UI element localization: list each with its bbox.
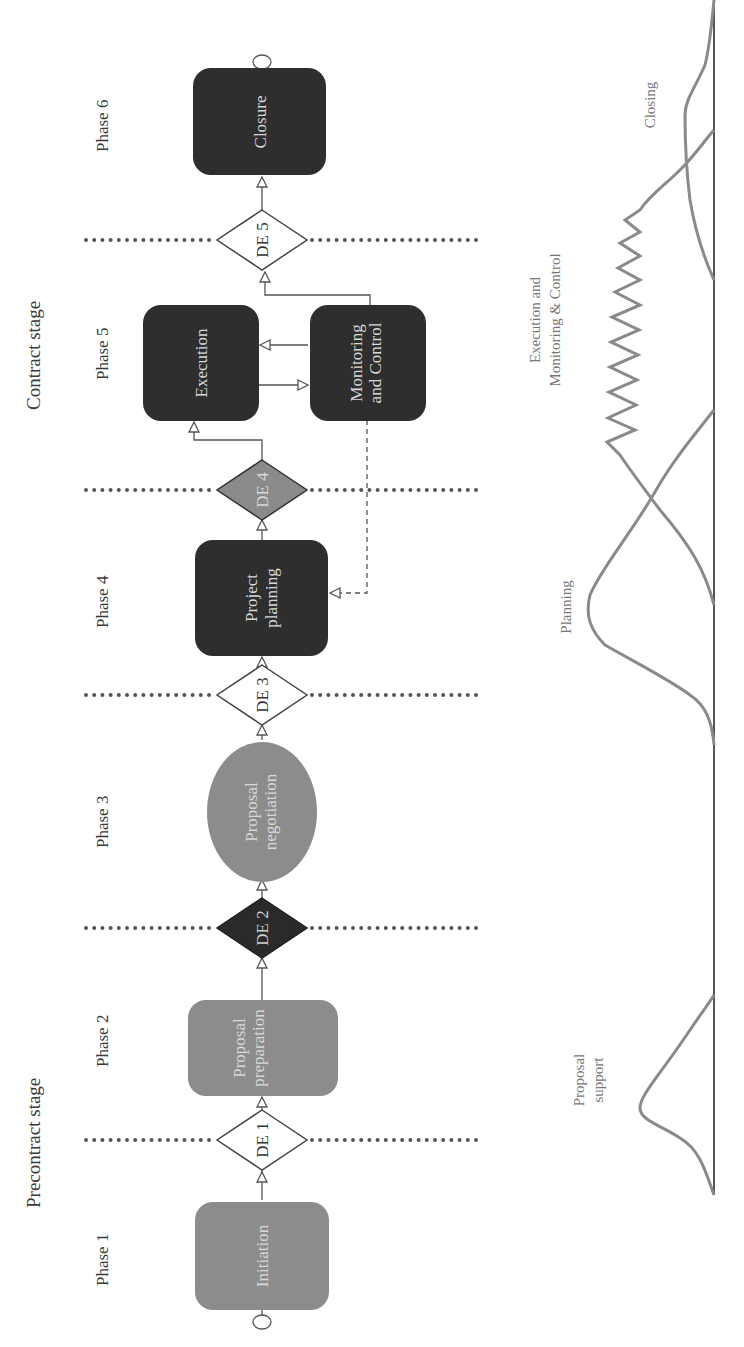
curve-closing: [685, 0, 714, 280]
curve-proposal-support: [640, 995, 714, 1195]
node-proposal-preparation: Proposal preparation: [188, 1000, 338, 1096]
svg-text:Contract stage: Contract stage: [23, 301, 44, 410]
start-event-icon: [253, 1315, 271, 1329]
decision-de2: DE 2: [217, 898, 307, 958]
phase-labels: Phase 1 Phase 2 Phase 3 Phase 4 Phase 5 …: [93, 100, 112, 1286]
svg-text:Proposal: Proposal: [242, 782, 261, 842]
node-initiation: Initiation: [195, 1202, 329, 1310]
label-proposal-support: Proposal: [571, 1054, 587, 1107]
phase-6-label: Phase 6: [93, 100, 112, 152]
svg-text:negotiation: negotiation: [261, 773, 280, 850]
label-execution-monitoring: Execution and: [527, 276, 543, 363]
node-closure: Closure: [193, 68, 326, 175]
label-proposal-support-2: support: [590, 1057, 606, 1103]
decision-de1: DE 1: [217, 1110, 307, 1170]
svg-text:planning: planning: [262, 568, 281, 628]
stage-label-contract: Contract stage: [23, 301, 44, 410]
stage-label-precontract: Precontract stage: [23, 1078, 44, 1208]
node-monitoring-and-control: Monitoring and Control: [310, 305, 426, 421]
phase-5-label: Phase 5: [93, 328, 112, 380]
svg-text:Precontract stage: Precontract stage: [23, 1078, 44, 1208]
decision-de4: DE 4: [217, 460, 307, 520]
svg-text:Closure: Closure: [251, 96, 270, 149]
svg-text:DE 3: DE 3: [253, 677, 272, 712]
phase-3-label: Phase 3: [93, 796, 112, 848]
svg-text:Proposal: Proposal: [230, 1018, 249, 1078]
svg-text:DE 1: DE 1: [253, 1122, 272, 1157]
svg-text:preparation: preparation: [249, 1009, 268, 1087]
phase-4-label: Phase 4: [93, 575, 112, 628]
svg-text:DE 5: DE 5: [253, 222, 272, 257]
svg-text:DE 4: DE 4: [253, 472, 272, 508]
label-execution-monitoring-2: Monitoring & Control: [547, 253, 563, 386]
svg-text:DE 2: DE 2: [253, 910, 272, 945]
svg-text:Initiation: Initiation: [253, 1224, 272, 1287]
project-lifecycle-diagram: Precontract stage Contract stage Phase 1…: [0, 0, 744, 1347]
phase-2-label: Phase 2: [93, 1015, 112, 1067]
curve-execution-monitoring: [607, 130, 714, 605]
svg-text:Project: Project: [242, 574, 261, 622]
phase-1-label: Phase 1: [93, 1234, 112, 1286]
curve-planning: [588, 410, 714, 745]
node-project-planning: Project planning: [195, 540, 328, 656]
end-event-icon: [253, 55, 271, 69]
decision-de3: DE 3: [217, 665, 307, 725]
decision-de5: DE 5: [217, 210, 307, 270]
node-execution: Execution: [143, 305, 259, 421]
effort-curves-panel: Proposal support Planning Execution and …: [527, 0, 714, 1195]
svg-text:and Control: and Control: [366, 322, 385, 403]
node-proposal-negotiation: Proposal negotiation: [207, 742, 317, 882]
label-planning: Planning: [558, 580, 574, 634]
svg-text:Execution: Execution: [192, 328, 211, 397]
label-closing: Closing: [642, 81, 658, 128]
svg-text:Monitoring: Monitoring: [347, 324, 366, 402]
